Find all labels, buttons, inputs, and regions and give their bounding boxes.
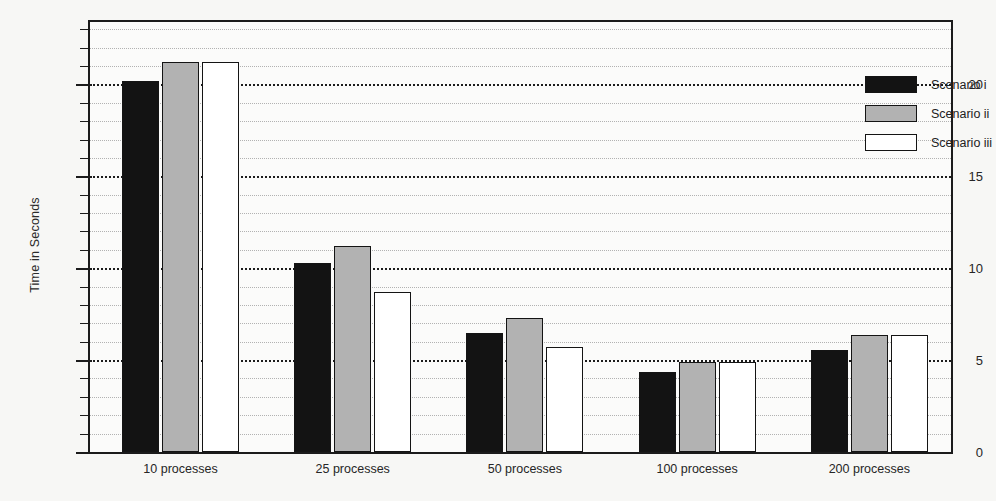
y-tick-minor bbox=[80, 287, 88, 288]
y-tick-major bbox=[76, 268, 88, 270]
x-axis-category-label: 10 processes bbox=[143, 462, 217, 476]
y-tick-minor bbox=[80, 378, 88, 379]
legend-swatch bbox=[865, 105, 917, 122]
legend-label: Scenario i bbox=[931, 78, 987, 92]
bar bbox=[162, 62, 199, 452]
y-tick-minor bbox=[80, 231, 88, 232]
legend-label: Scenario ii bbox=[931, 107, 989, 121]
plot-area: Scenario iScenario iiScenario iii bbox=[88, 20, 953, 454]
legend-label: Scenario iii bbox=[931, 136, 992, 150]
y-tick-minor bbox=[80, 397, 88, 398]
x-axis-category-label: 100 processes bbox=[656, 462, 737, 476]
x-axis-category-label: 200 processes bbox=[829, 462, 910, 476]
y-tick-minor bbox=[80, 250, 88, 251]
y-tick-minor bbox=[80, 140, 88, 141]
y-tick-minor bbox=[80, 305, 88, 306]
bar bbox=[202, 62, 239, 452]
bar bbox=[466, 333, 503, 452]
bar bbox=[811, 350, 848, 452]
bar bbox=[334, 246, 371, 452]
y-tick-minor bbox=[80, 434, 88, 435]
y-tick-minor bbox=[80, 158, 88, 159]
y-tick-major bbox=[76, 176, 88, 178]
y-tick-minor bbox=[80, 195, 88, 196]
bar bbox=[506, 318, 543, 452]
bar bbox=[546, 347, 583, 452]
bar bbox=[294, 263, 331, 452]
y-tick-minor bbox=[80, 342, 88, 343]
legend-swatch bbox=[865, 76, 917, 93]
y-tick-minor bbox=[80, 48, 88, 49]
x-axis-category-label: 25 processes bbox=[316, 462, 390, 476]
y-tick-major bbox=[76, 452, 88, 454]
bar bbox=[679, 362, 716, 452]
bar bbox=[122, 81, 159, 452]
legend-item: Scenario ii bbox=[865, 99, 996, 128]
bar bbox=[851, 335, 888, 452]
y-tick-minor bbox=[80, 66, 88, 67]
y-tick-minor bbox=[80, 103, 88, 104]
gridline-minor bbox=[90, 29, 951, 30]
chart-legend: Scenario iScenario iiScenario iii bbox=[865, 60, 996, 169]
x-axis-category-label: 50 processes bbox=[488, 462, 562, 476]
plot-inner bbox=[90, 22, 951, 452]
legend-item: Scenario i bbox=[865, 70, 996, 99]
y-tick-major bbox=[76, 360, 88, 362]
y-tick-minor bbox=[80, 415, 88, 416]
bar bbox=[374, 292, 411, 452]
legend-swatch bbox=[865, 134, 917, 151]
y-tick-minor bbox=[80, 121, 88, 122]
y-axis-title: Time in Seconds bbox=[28, 165, 42, 325]
y-tick-major bbox=[76, 84, 88, 86]
bar bbox=[639, 372, 676, 452]
legend-item: Scenario iii bbox=[865, 128, 996, 157]
bar bbox=[719, 362, 756, 452]
bar bbox=[891, 335, 928, 452]
y-tick-minor bbox=[80, 213, 88, 214]
gridline-minor bbox=[90, 48, 951, 49]
y-tick-minor bbox=[80, 29, 88, 30]
y-tick-minor bbox=[80, 323, 88, 324]
